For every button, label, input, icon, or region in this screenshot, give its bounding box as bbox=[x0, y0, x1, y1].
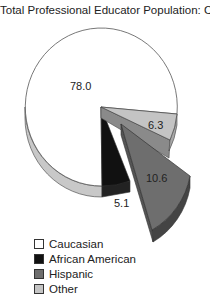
swatch-other bbox=[34, 284, 44, 294]
label-african-american: 5.1 bbox=[114, 197, 129, 209]
legend: Caucasian African American Hispanic Othe… bbox=[34, 236, 136, 296]
swatch-caucasian bbox=[34, 239, 44, 249]
legend-item-african-american: African American bbox=[34, 251, 136, 266]
label-hispanic: 10.6 bbox=[146, 172, 167, 184]
legend-label: Other bbox=[49, 283, 78, 295]
legend-label: African American bbox=[49, 253, 136, 265]
legend-label: Caucasian bbox=[49, 238, 103, 250]
label-other: 6.3 bbox=[148, 119, 163, 131]
label-caucasian: 78.0 bbox=[70, 80, 91, 92]
swatch-hispanic bbox=[34, 269, 44, 279]
legend-item-caucasian: Caucasian bbox=[34, 236, 136, 251]
legend-label: Hispanic bbox=[49, 268, 93, 280]
legend-item-other: Other bbox=[34, 281, 136, 296]
legend-item-hispanic: Hispanic bbox=[34, 266, 136, 281]
swatch-african-american bbox=[34, 254, 44, 264]
